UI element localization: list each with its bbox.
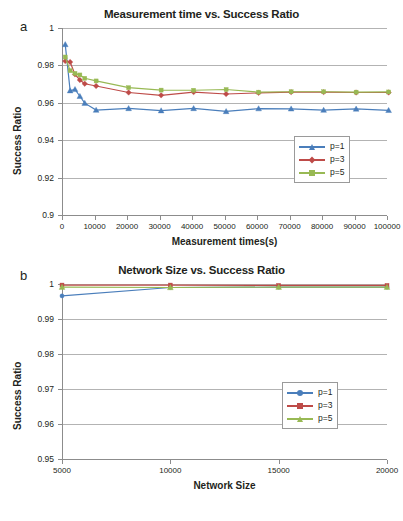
data-point [289, 90, 293, 94]
x-axis-label-a: Measurement times(s) [62, 236, 387, 247]
x-tick-label: 90000 [343, 222, 365, 231]
x-tick-mark [95, 216, 96, 220]
x-tick-mark [355, 216, 356, 220]
x-tick-label: 100000 [374, 222, 401, 231]
chart-panel-a: a Measurement time vs. Success Ratio Suc… [0, 0, 403, 258]
series-layer [62, 28, 387, 215]
figure-container: a Measurement time vs. Success Ratio Suc… [0, 0, 403, 521]
series-line-p-1 [62, 287, 387, 296]
x-tick-mark [290, 216, 291, 220]
data-point [223, 91, 228, 96]
data-point [60, 294, 64, 298]
legend-label: p=1 [318, 387, 332, 398]
chart-title-b: Network Size vs. Success Ratio [0, 264, 403, 276]
y-tick-label: 0.98 [14, 349, 54, 359]
x-tick-mark [279, 460, 280, 464]
data-point [192, 88, 196, 92]
legend-swatch [287, 400, 313, 411]
x-axis-label-b: Network Size [62, 480, 387, 491]
x-tick-label: 10000 [159, 466, 181, 475]
x-tick-label: 20000 [116, 222, 138, 231]
y-tick-label: 0.94 [14, 135, 54, 145]
x-tick-label: 30000 [148, 222, 170, 231]
data-point [68, 69, 72, 73]
legend-swatch [299, 167, 325, 178]
x-tick-label: 20000 [376, 466, 398, 475]
x-tick-mark [170, 460, 171, 464]
series-line-p-5 [65, 57, 388, 92]
x-tick-mark [192, 216, 193, 220]
legend-swatch [299, 141, 325, 152]
x-tick-mark [225, 216, 226, 220]
x-tick-mark [62, 460, 63, 464]
legend-b: p=1p=3p=5 [282, 382, 338, 429]
x-tick-label: 60000 [246, 222, 268, 231]
legend-swatch [287, 387, 313, 398]
y-tick-label: 1 [14, 279, 54, 289]
data-point [354, 90, 358, 94]
x-tick-label: 40000 [181, 222, 203, 231]
x-tick-mark [322, 216, 323, 220]
y-tick-label: 0.92 [14, 173, 54, 183]
x-tick-mark [257, 216, 258, 220]
x-tick-mark [62, 216, 63, 220]
plot-area-b: 0.950.960.970.980.9915000100001500020000 [62, 284, 387, 459]
data-point [63, 55, 67, 59]
legend-item-p-3[interactable]: p=3 [287, 399, 332, 412]
y-tick-label: 0.96 [14, 419, 54, 429]
data-point [93, 83, 98, 88]
data-point [387, 90, 391, 94]
data-point [83, 76, 87, 80]
legend-a: p=1p=3p=5 [294, 136, 350, 183]
data-point [224, 88, 228, 92]
y-tick-label: 0.96 [14, 98, 54, 108]
legend-label: p=3 [318, 400, 332, 411]
data-point [257, 90, 261, 94]
data-point [94, 79, 98, 83]
data-point [62, 42, 68, 47]
y-tick-label: 0.98 [14, 60, 54, 70]
x-tick-mark [127, 216, 128, 220]
legend-item-p-5[interactable]: p=5 [287, 412, 332, 425]
y-tick-label: 1 [14, 23, 54, 33]
x-tick-label: 0 [60, 222, 64, 231]
data-point [126, 90, 131, 95]
data-point [127, 86, 131, 90]
legend-item-p-1[interactable]: p=1 [299, 140, 344, 153]
x-tick-label: 15000 [268, 466, 290, 475]
data-point [322, 90, 326, 94]
legend-label: p=3 [330, 154, 344, 165]
legend-label: p=5 [318, 413, 332, 424]
data-point [158, 93, 163, 98]
x-tick-label: 5000 [53, 466, 71, 475]
data-point [73, 71, 77, 75]
series-line-p-1 [65, 44, 388, 111]
y-tick-label: 0.95 [14, 454, 54, 464]
x-tick-label: 50000 [213, 222, 235, 231]
x-tick-label: 70000 [278, 222, 300, 231]
x-tick-label: 80000 [311, 222, 333, 231]
legend-swatch [299, 154, 325, 165]
data-point [72, 86, 78, 91]
legend-item-p-1[interactable]: p=1 [287, 386, 332, 399]
data-point [78, 73, 82, 77]
legend-item-p-5[interactable]: p=5 [299, 166, 344, 179]
data-point [159, 88, 163, 92]
x-tick-label: 10000 [83, 222, 105, 231]
x-tick-mark [387, 460, 388, 464]
legend-swatch [287, 413, 313, 424]
series-layer [62, 284, 387, 459]
x-axis-line [62, 459, 387, 460]
y-tick-label: 0.99 [14, 314, 54, 324]
y-tick-label: 0.9 [14, 210, 54, 220]
x-tick-mark [387, 216, 388, 220]
y-tick-label: 0.97 [14, 384, 54, 394]
chart-panel-b: b Network Size vs. Success Ratio Success… [0, 258, 403, 498]
x-tick-mark [160, 216, 161, 220]
chart-title-a: Measurement time vs. Success Ratio [0, 8, 403, 20]
legend-item-p-3[interactable]: p=3 [299, 153, 344, 166]
legend-label: p=1 [330, 141, 344, 152]
plot-area-a: 0.90.920.940.960.98101000020000300004000… [62, 28, 387, 215]
legend-label: p=5 [330, 167, 344, 178]
